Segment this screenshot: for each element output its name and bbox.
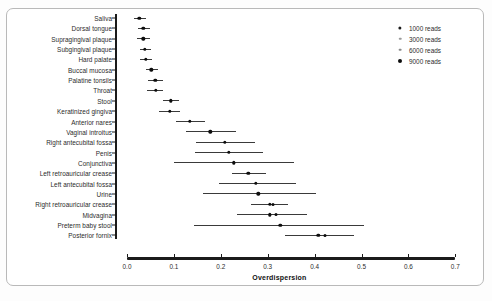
data-row xyxy=(0,210,492,219)
data-point xyxy=(232,161,235,164)
value-tick xyxy=(362,254,363,257)
data-point xyxy=(150,68,153,71)
data-point xyxy=(154,89,157,92)
data-row xyxy=(0,148,492,157)
data-row xyxy=(0,231,492,240)
data-point xyxy=(188,120,191,123)
value-tick xyxy=(408,254,409,257)
data-point xyxy=(209,130,212,133)
data-point xyxy=(223,140,226,143)
value-tick-label: 0.2 xyxy=(216,263,225,270)
value-tick-label: 0.5 xyxy=(357,263,366,270)
value-tick-label: 0.1 xyxy=(169,263,178,270)
value-tick-label: 0.7 xyxy=(451,263,460,270)
data-point xyxy=(254,182,257,185)
data-point xyxy=(142,37,145,40)
data-row xyxy=(0,221,492,230)
value-tick xyxy=(268,254,269,257)
legend-marker-icon xyxy=(399,48,402,51)
data-row xyxy=(0,76,492,85)
data-point xyxy=(227,151,230,154)
data-row xyxy=(0,107,492,116)
value-tick xyxy=(127,254,128,257)
data-row xyxy=(0,169,492,178)
data-point xyxy=(247,172,250,175)
confidence-interval-whisker xyxy=(219,183,296,184)
data-row xyxy=(0,200,492,209)
value-tick-label: 0.6 xyxy=(404,263,413,270)
data-point xyxy=(142,27,145,30)
data-point xyxy=(168,109,171,112)
data-point xyxy=(268,213,271,216)
figure-container: SalivaDorsal tongueSupragingival plaqueS… xyxy=(0,0,492,301)
data-point xyxy=(169,99,172,102)
confidence-interval-whisker xyxy=(237,214,306,215)
data-row xyxy=(0,179,492,188)
data-row xyxy=(0,86,492,95)
value-tick xyxy=(455,254,456,257)
data-row xyxy=(0,117,492,126)
data-point-secondary xyxy=(324,234,327,237)
data-point xyxy=(268,203,271,206)
data-row xyxy=(0,189,492,198)
data-point xyxy=(257,192,260,195)
data-row xyxy=(0,138,492,147)
data-point xyxy=(137,16,140,19)
plot-area: SalivaDorsal tongueSupragingival plaqueS… xyxy=(0,0,492,301)
legend-label: 1000 reads xyxy=(409,24,441,31)
legend-label: 9000 reads xyxy=(409,57,441,64)
data-point xyxy=(279,223,282,226)
data-row xyxy=(0,96,492,105)
data-point xyxy=(153,78,156,81)
value-tick-label: 0.3 xyxy=(263,263,272,270)
data-row xyxy=(0,158,492,167)
data-row xyxy=(0,14,492,23)
data-point xyxy=(144,58,147,61)
value-axis-title: Overdispersion xyxy=(252,274,306,281)
legend-marker-icon xyxy=(399,37,402,40)
data-row xyxy=(0,65,492,74)
data-point xyxy=(143,47,146,50)
value-tick xyxy=(174,254,175,257)
data-point-secondary xyxy=(275,213,278,216)
value-tick-label: 0.4 xyxy=(310,263,319,270)
data-point-secondary xyxy=(272,203,275,206)
legend-marker-icon xyxy=(398,59,402,63)
legend-label: 3000 reads xyxy=(409,35,441,42)
legend-label: 6000 reads xyxy=(409,46,441,53)
value-tick xyxy=(221,254,222,257)
value-tick-label: 0.0 xyxy=(123,263,132,270)
value-tick xyxy=(315,254,316,257)
data-row xyxy=(0,127,492,136)
value-axis-line xyxy=(127,257,455,260)
data-point xyxy=(317,234,320,237)
